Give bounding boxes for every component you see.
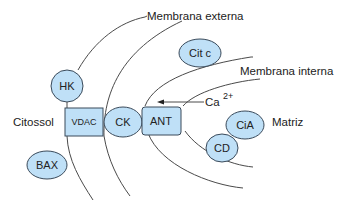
calcium-symbol: Ca: [205, 96, 220, 108]
cia-label: CiA: [236, 119, 254, 131]
mitochondria-diagram: HK VDAC CK ANT Cit c BAX CiA CD Membrana…: [0, 0, 342, 212]
ant-node: ANT: [142, 107, 181, 135]
cytosol-label: Citossol: [13, 116, 54, 128]
matrix-label: Matriz: [272, 116, 304, 128]
cia-node: CiA: [226, 111, 264, 139]
cit-c-label: Cit c: [189, 47, 212, 59]
hk-node: HK: [51, 70, 83, 102]
cd-node: CD: [206, 134, 238, 162]
outer-membrane-label: Membrana externa: [147, 10, 244, 22]
cit-c-node: Cit c: [179, 39, 221, 67]
outer-membrane-outer-curve-lower: [67, 136, 93, 200]
outer-membrane-inner-curve-lower: [104, 136, 130, 196]
cd-label: CD: [214, 142, 230, 154]
ck-node: CK: [104, 107, 142, 137]
vdac-label: VDAC: [71, 117, 97, 127]
calcium-arrowhead-icon: [157, 100, 164, 105]
outer-membrane-outer-curve: [78, 17, 145, 70]
ck-label: CK: [115, 116, 131, 128]
vdac-node: VDAC: [65, 108, 103, 136]
calcium-label: Ca 2+: [205, 91, 233, 108]
inner-membrane-label: Membrana interna: [240, 65, 334, 77]
ant-label: ANT: [150, 115, 172, 127]
bax-node: BAX: [27, 151, 67, 179]
calcium-charge: 2+: [223, 91, 233, 101]
hk-label: HK: [59, 80, 75, 92]
bax-label: BAX: [36, 159, 59, 171]
